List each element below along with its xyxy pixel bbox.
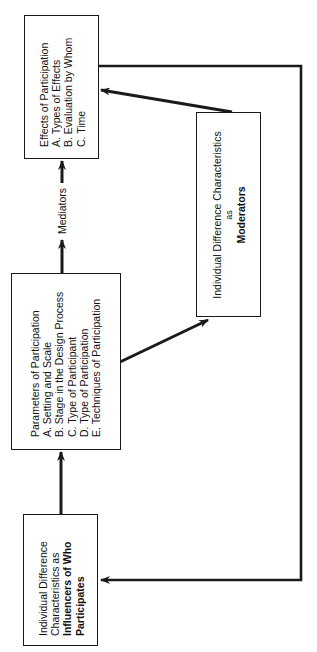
parameters-title: Parameters of Participation <box>29 287 41 437</box>
influencers-line2: Characteristics as <box>48 524 60 636</box>
influencers-text: Individual Difference Characteristics as… <box>36 524 85 636</box>
effects-item-b: B. Evaluation by Whom <box>62 27 74 147</box>
moderators-line3: Moderators <box>235 120 247 310</box>
parameters-item-a: A. Setting and Scale <box>42 287 54 437</box>
moderators-line2: as <box>222 120 234 310</box>
moderators-text: Individual Difference Characteristics as… <box>210 120 247 310</box>
effects-item-a: A. Types of Effects <box>49 27 61 147</box>
parameters-item-d: D. Type of Participation <box>78 287 90 437</box>
moderators-box: Individual Difference Characteristics as… <box>196 112 261 317</box>
parameters-text: Parameters of Participation A. Setting a… <box>29 287 102 437</box>
parameters-item-c: C. Type of Participant <box>66 287 78 437</box>
influencers-line1: Individual Difference <box>36 524 48 636</box>
parameters-item-e: E. Techniques of Participation <box>90 287 102 437</box>
effects-title: Effects of Participation <box>37 27 49 147</box>
influencers-line3: Influencers of Who <box>61 524 73 636</box>
mediators-label: Mediators <box>56 186 68 236</box>
effects-text: Effects of Participation A. Types of Eff… <box>37 27 86 147</box>
arrow-parameters-to-moderators <box>120 320 208 362</box>
moderators-line1: Individual Difference Characteristics <box>210 120 222 310</box>
arrow-moderators-to-effects <box>101 90 232 112</box>
parameters-item-b: B. Stage in the Design Process <box>54 287 66 437</box>
parameters-of-participation-box: Parameters of Participation A. Setting a… <box>11 273 121 450</box>
effects-item-c: C. Time <box>74 27 86 147</box>
influencers-box: Individual Difference Characteristics as… <box>23 514 98 646</box>
influencers-line4: Participates <box>73 524 85 636</box>
effects-of-participation-box: Effects of Participation A. Types of Eff… <box>24 15 99 159</box>
